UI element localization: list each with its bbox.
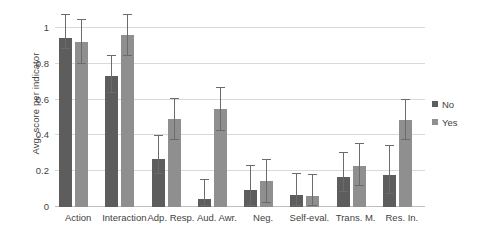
error-bar-cap xyxy=(385,145,394,146)
bar-group xyxy=(194,28,240,207)
bar-group xyxy=(240,28,286,207)
bar-group xyxy=(333,28,379,207)
bar-rect xyxy=(121,35,134,207)
error-bar xyxy=(111,56,112,94)
error-bar-cap xyxy=(292,205,301,206)
error-bar-cap xyxy=(308,205,317,206)
error-bar-cap xyxy=(200,179,209,180)
error-bar xyxy=(81,20,82,64)
error-bar-cap xyxy=(154,135,163,136)
error-bar-cap xyxy=(262,202,271,203)
x-tick-label: Res. In. xyxy=(379,212,425,223)
error-bar-cap xyxy=(61,48,70,49)
y-tick-label: 1 xyxy=(44,22,49,33)
error-bar xyxy=(343,153,344,191)
bar-no[interactable] xyxy=(105,28,118,207)
bar-rect xyxy=(75,42,88,207)
error-bar-cap xyxy=(123,14,132,15)
x-tick-label: Adp. Resp. xyxy=(148,212,194,223)
error-bar-cap xyxy=(216,87,225,88)
bar-no[interactable] xyxy=(383,28,396,207)
error-bar xyxy=(158,136,159,174)
x-axis-labels: ActionInteractionAdp. Resp.Aud. Awr.Neg.… xyxy=(55,212,425,234)
error-bar-cap xyxy=(107,92,116,93)
error-bar xyxy=(389,146,390,193)
x-tick-label: Neg. xyxy=(240,212,286,223)
error-bar-cap xyxy=(401,99,410,100)
bar-yes[interactable] xyxy=(121,28,134,207)
bar-yes[interactable] xyxy=(306,28,319,207)
error-bar-cap xyxy=(216,130,225,131)
bar-yes[interactable] xyxy=(353,28,366,207)
error-bar xyxy=(204,180,205,206)
bar-no[interactable] xyxy=(198,28,211,207)
legend-label: No xyxy=(442,99,454,110)
legend-label: Yes xyxy=(442,117,458,128)
error-bar-cap xyxy=(401,139,410,140)
x-tick-label: Trans. M. xyxy=(333,212,379,223)
bar-no[interactable] xyxy=(244,28,257,207)
legend-swatch-icon xyxy=(432,119,438,125)
error-bar-cap xyxy=(385,193,394,194)
error-bar xyxy=(127,15,128,56)
bar-no[interactable] xyxy=(152,28,165,207)
bar-rect xyxy=(59,38,72,207)
bar-yes[interactable] xyxy=(260,28,273,207)
bar-group xyxy=(101,28,147,207)
error-bar-cap xyxy=(77,19,86,20)
error-bar-cap xyxy=(262,159,271,160)
bar-no[interactable] xyxy=(59,28,72,207)
bar-no[interactable] xyxy=(290,28,303,207)
bar-yes[interactable] xyxy=(399,28,412,207)
x-tick-label: Self-eval. xyxy=(286,212,332,223)
error-bar-cap xyxy=(246,165,255,166)
error-bar-cap xyxy=(77,63,86,64)
error-bar-cap xyxy=(355,185,364,186)
error-bar-cap xyxy=(246,205,255,206)
error-bar xyxy=(312,175,313,206)
bar-no[interactable] xyxy=(337,28,350,207)
y-tick-label: 0.6 xyxy=(36,93,49,104)
bar-group xyxy=(148,28,194,207)
bar-group xyxy=(379,28,425,207)
error-bar xyxy=(250,166,251,206)
error-bar-cap xyxy=(154,173,163,174)
error-bar-cap xyxy=(61,14,70,15)
error-bar xyxy=(405,100,406,140)
x-tick-label: Aud. Awr. xyxy=(194,212,240,223)
bar-yes[interactable] xyxy=(75,28,88,207)
error-bar-cap xyxy=(292,173,301,174)
error-bar xyxy=(174,99,175,140)
x-tick-label: Action xyxy=(55,212,101,223)
y-tick-label: 0 xyxy=(44,201,49,212)
error-bar-cap xyxy=(170,139,179,140)
error-bar xyxy=(266,160,267,202)
bar-group xyxy=(55,28,101,207)
bar-yes[interactable] xyxy=(168,28,181,207)
error-bar-cap xyxy=(308,174,317,175)
legend-item-no[interactable]: No xyxy=(432,95,480,113)
x-tick-label: Interaction xyxy=(101,212,147,223)
bar-chart: Avg. score per indicator 00.20.40.60.81 … xyxy=(0,0,483,241)
error-bar-cap xyxy=(355,143,364,144)
legend-item-yes[interactable]: Yes xyxy=(432,113,480,131)
bar-rect xyxy=(105,76,118,207)
error-bar xyxy=(296,174,297,206)
plot-area: 00.20.40.60.81 xyxy=(55,28,425,207)
error-bar-cap xyxy=(339,152,348,153)
y-tick-label: 0.8 xyxy=(36,57,49,68)
error-bar-cap xyxy=(123,55,132,56)
legend-swatch-icon xyxy=(432,101,438,107)
error-bar-cap xyxy=(107,55,116,56)
error-bar-cap xyxy=(200,205,209,206)
bar-yes[interactable] xyxy=(214,28,227,207)
error-bar-cap xyxy=(170,98,179,99)
error-bar xyxy=(65,15,66,49)
y-tick-label: 0.4 xyxy=(36,129,49,140)
error-bar xyxy=(220,88,221,131)
y-tick-label: 0.2 xyxy=(36,165,49,176)
bar-groups xyxy=(55,28,425,207)
chart-legend: NoYes xyxy=(432,95,480,131)
bar-group xyxy=(286,28,332,207)
error-bar-cap xyxy=(339,191,348,192)
